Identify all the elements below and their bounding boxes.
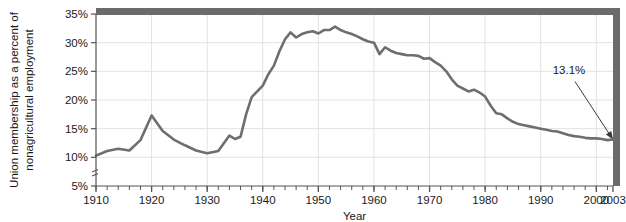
x-tick-label: 1960 [361,194,387,206]
y-tick-label: 10% [65,151,88,163]
x-axis-title: Year [343,210,366,222]
x-tick-label: 1910 [83,194,109,206]
x-tick-label: 1920 [139,194,165,206]
y-tick-label: 25% [65,65,88,77]
y-tick-label: 30% [65,37,88,49]
y-tick-label: 5% [71,180,88,192]
x-tick-label: 1970 [417,194,443,206]
x-tick-label: 1930 [194,194,220,206]
x-tick-label: 1940 [250,194,276,206]
y-tick-label: 15% [65,123,88,135]
frame-right-bar [613,8,620,186]
x-tick-label: 2003 [600,194,626,206]
union-membership-line-chart: 5%10%15%20%25%30%35% 1910192019301940195… [0,0,626,222]
y-tick-label: 35% [65,8,88,20]
chart-background [0,0,626,222]
y-tick-label: 20% [65,94,88,106]
annotation-13-1-percent: 13.1% [553,64,586,76]
y-axis-title-line1: Union membership as a percent of [8,11,20,188]
x-tick-label: 1980 [472,194,498,206]
x-tick-label: 1950 [306,194,332,206]
x-tick-label: 1990 [528,194,554,206]
chart-container: 5%10%15%20%25%30%35% 1910192019301940195… [0,0,626,222]
frame-top-bar [96,8,620,15]
y-axis-title-line2: nonagricultural employment [23,29,35,171]
